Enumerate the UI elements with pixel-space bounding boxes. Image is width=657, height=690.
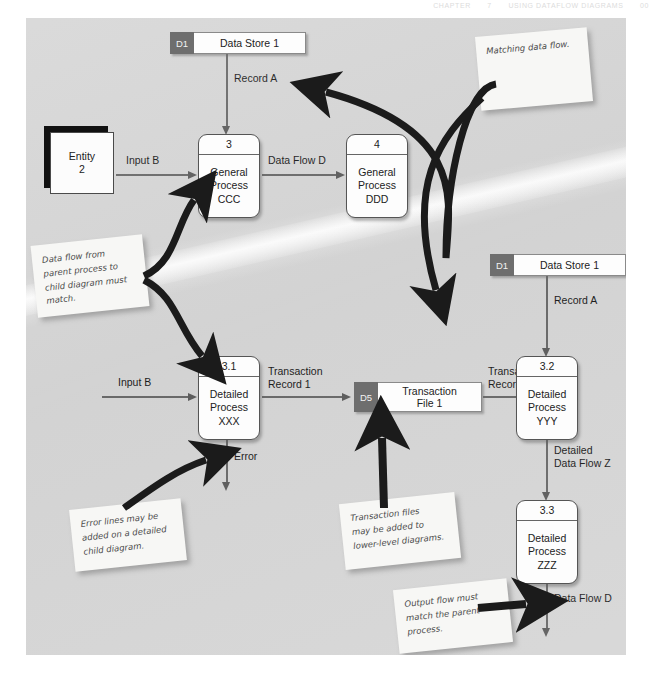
process-line1: General: [358, 166, 395, 179]
process-line1: Detailed: [528, 532, 567, 545]
data-store-code: D5: [354, 382, 378, 412]
data-store-d1-right[interactable]: D1 Data Store 1: [490, 254, 626, 276]
diagonal-glare-soft: [26, 108, 626, 359]
process-line3: YYY: [536, 415, 557, 428]
arrowhead-input-b-bottom: [188, 393, 197, 401]
note-error-lines[interactable]: Error lines may be added on a detailed c…: [69, 498, 187, 571]
flow-label-input-b-bottom: Input B: [118, 376, 151, 389]
data-store-label: Data Store 1: [514, 254, 626, 276]
note-transaction-files[interactable]: Transaction files may be added to lower-…: [339, 492, 461, 570]
flow-line-error: [226, 440, 228, 486]
page-header-title: USING DATAFLOW DIAGRAMS: [508, 2, 623, 9]
page-header-number: 7: [487, 2, 492, 9]
page-header-folio: 00: [640, 2, 649, 9]
process-body: Detailed Process YYY: [517, 377, 577, 439]
process-body: General Process CCC: [199, 155, 259, 217]
arrowhead-error: [222, 482, 230, 491]
flow-line-record-a-right: [546, 276, 548, 352]
data-store-d1-top[interactable]: D1 Data Store 1: [170, 32, 306, 54]
process-body: Detailed Process ZZZ: [517, 521, 577, 583]
process-number: 3.3: [517, 501, 577, 521]
flow-label-data-flow-d-bottom: Data Flow D: [554, 592, 612, 605]
page-header: CHAPTER 7 USING DATAFLOW DIAGRAMS 00: [0, 2, 657, 14]
note-output-flow[interactable]: Output flow must match the parent proces…: [393, 578, 513, 654]
process-line1: Detailed: [210, 388, 249, 401]
process-number: 4: [347, 135, 407, 155]
process-3-2[interactable]: 3.2 Detailed Process YYY: [516, 356, 578, 440]
flow-line-data-flow-d-bottom: [546, 584, 548, 632]
annotation-arrow-parent: [144, 200, 194, 276]
arrowhead-transaction-record-1-a: [342, 393, 351, 401]
flow-line-detailed-data-flow-z: [546, 440, 548, 496]
note-parent-child-match[interactable]: Data flow from parent process to child d…: [31, 234, 150, 317]
data-store-label: Transaction File 1: [378, 382, 482, 412]
annotation-arrow-matching-right: [424, 98, 482, 290]
entity-label-line1: Entity: [69, 150, 95, 163]
page-root: CHAPTER 7 USING DATAFLOW DIAGRAMS 00 D1 …: [0, 0, 657, 690]
process-body: General Process DDD: [347, 155, 407, 217]
process-line2: Process: [528, 545, 566, 558]
flow-label-input-b-top: Input B: [126, 154, 159, 167]
process-3-1[interactable]: 3.1 Detailed Process XXX: [198, 356, 260, 440]
process-line3: CCC: [218, 193, 241, 206]
process-line3: ZZZ: [537, 559, 556, 572]
arrowhead-input-b-top: [188, 171, 197, 179]
process-line3: DDD: [366, 193, 389, 206]
process-number: 3: [199, 135, 259, 155]
process-line2: Process: [210, 401, 248, 414]
annotation-arrow-transaction-files: [382, 438, 384, 508]
diagram-canvas: D1 Data Store 1 Record A Entity 2 Input …: [26, 18, 626, 655]
process-3-3[interactable]: 3.3 Detailed Process ZZZ: [516, 500, 578, 584]
flow-label-record-a-right: Record A: [554, 294, 597, 307]
process-line2: Process: [210, 179, 248, 192]
page-header-chapter: CHAPTER: [433, 2, 471, 9]
process-number: 3.1: [199, 357, 259, 377]
data-store-label: Data Store 1: [194, 32, 306, 54]
diagonal-glare-band: [26, 116, 626, 348]
flow-label-detailed-data-flow-z: Detailed Data Flow Z: [554, 444, 611, 470]
process-line3: XXX: [218, 415, 239, 428]
flow-line-input-b-bottom: [102, 396, 190, 398]
flow-line-record-a-top: [226, 54, 228, 130]
annotation-arrow-child: [144, 280, 202, 356]
flow-line-input-b-top: [116, 174, 190, 176]
flow-label-error: Error: [234, 450, 257, 463]
data-store-code: D1: [170, 32, 194, 54]
process-number: 3.2: [517, 357, 577, 377]
process-4[interactable]: 4 General Process DDD: [346, 134, 408, 218]
data-store-d5[interactable]: D5 Transaction File 1: [354, 382, 482, 412]
arrowhead-data-flow-d-top: [336, 171, 345, 179]
process-3[interactable]: 3 General Process CCC: [198, 134, 260, 218]
process-line2: Process: [358, 179, 396, 192]
process-line1: General: [210, 166, 247, 179]
process-line2: Process: [528, 401, 566, 414]
entity-label-line2: 2: [79, 163, 85, 176]
external-entity-2[interactable]: Entity 2: [50, 132, 114, 194]
process-body: Detailed Process XXX: [199, 377, 259, 439]
flow-label-data-flow-d-top: Data Flow D: [268, 154, 326, 167]
flow-line-transaction-record-1-a: [262, 396, 344, 398]
process-line1: Detailed: [528, 388, 567, 401]
flow-line-data-flow-d-top: [262, 174, 338, 176]
note-matching-data-flow[interactable]: Matching data flow.: [475, 27, 593, 110]
arrowhead-data-flow-d-bottom: [542, 628, 550, 637]
flow-label-transaction-record-1-a: Transaction Record 1: [268, 365, 322, 391]
data-store-code: D1: [490, 254, 514, 276]
flow-label-record-a-top: Record A: [234, 72, 277, 85]
